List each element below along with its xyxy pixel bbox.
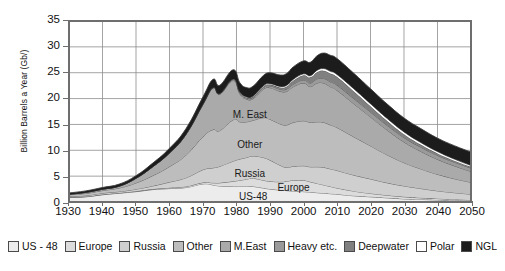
legend-item-other[interactable]: Other (173, 241, 213, 252)
y-axis-tickmark (63, 98, 68, 99)
x-axis-tickmark (270, 201, 271, 206)
stacked-area-svg (69, 21, 471, 202)
y-axis-tickmark (63, 203, 68, 204)
series-label-us-48: US-48 (239, 192, 267, 202)
legend-swatch-icon (119, 241, 130, 252)
legend-label: Russia (133, 241, 165, 252)
series-label-m-east: M. East (233, 110, 267, 120)
x-axis-tickmark (135, 201, 136, 206)
y-axis-tick: 20 (32, 92, 60, 104)
x-axis-tickmark (472, 201, 473, 206)
y-axis-tick: 30 (32, 40, 60, 52)
y-axis-title: Billion Barrels a Year (Gb/) (19, 11, 29, 191)
legend-swatch-icon (173, 241, 184, 252)
y-axis-tick: 25 (32, 66, 60, 78)
legend-label: Other (187, 241, 213, 252)
y-axis-tick: 5 (32, 171, 60, 183)
x-axis-tickmark (371, 201, 372, 206)
x-axis-tickmark (337, 201, 338, 206)
x-axis-tickmark (438, 201, 439, 206)
chart-figure: Billion Barrels a Year (Gb/) 05101520253… (0, 0, 505, 271)
y-axis-tick: 35 (32, 14, 60, 26)
y-axis-tick-labels: 05101520253035 (30, 0, 60, 271)
legend-label: M.East (234, 241, 267, 252)
legend-item-heavy-etc[interactable]: Heavy etc. (274, 241, 338, 252)
x-axis-tick: 2050 (449, 206, 495, 218)
x-axis-tickmark (169, 201, 170, 206)
series-label-other: Other (237, 140, 262, 150)
legend-item-deepwater[interactable]: Deepwater (344, 241, 409, 252)
x-axis-tickmark (68, 201, 69, 206)
legend-swatch-icon (220, 241, 231, 252)
legend-label: Europe (79, 241, 113, 252)
series-label-russia: Russia (235, 169, 266, 179)
legend-label: NGL (475, 241, 497, 252)
legend-swatch-icon (8, 241, 19, 252)
legend-label: Heavy etc. (288, 241, 338, 252)
plot-area (68, 20, 472, 203)
legend-label: Deepwater (358, 241, 409, 252)
y-axis-tickmark (63, 177, 68, 178)
legend-item-europe[interactable]: Europe (65, 241, 113, 252)
x-axis-tickmark (102, 201, 103, 206)
chart-legend: US - 48EuropeRussiaOtherM.EastHeavy etc.… (0, 234, 505, 258)
legend-item-russia[interactable]: Russia (119, 241, 165, 252)
x-axis-tickmark (405, 201, 406, 206)
legend-item-ngl[interactable]: NGL (461, 241, 497, 252)
legend-swatch-icon (461, 241, 472, 252)
y-axis-tickmark (63, 151, 68, 152)
legend-item-us-48[interactable]: US - 48 (8, 241, 58, 252)
legend-label: US - 48 (22, 241, 58, 252)
y-axis-tickmark (63, 46, 68, 47)
legend-item-m-east[interactable]: M.East (220, 241, 267, 252)
x-axis-tickmark (203, 201, 204, 206)
y-axis-tickmark (63, 72, 68, 73)
legend-label: Polar (430, 241, 455, 252)
legend-swatch-icon (65, 241, 76, 252)
y-axis-tick: 10 (32, 145, 60, 157)
y-axis-tick: 15 (32, 119, 60, 131)
legend-swatch-icon (344, 241, 355, 252)
legend-swatch-icon (416, 241, 427, 252)
x-axis-tick-labels: 1930194019501960197019801990200020102020… (0, 206, 505, 226)
legend-item-polar[interactable]: Polar (416, 241, 455, 252)
x-axis-tickmark (236, 201, 237, 206)
y-axis-tickmark (63, 20, 68, 21)
x-axis-tickmark (304, 201, 305, 206)
y-axis-tickmark (63, 125, 68, 126)
series-label-europe: Europe (277, 183, 309, 193)
series-areas (69, 53, 471, 202)
legend-swatch-icon (274, 241, 285, 252)
